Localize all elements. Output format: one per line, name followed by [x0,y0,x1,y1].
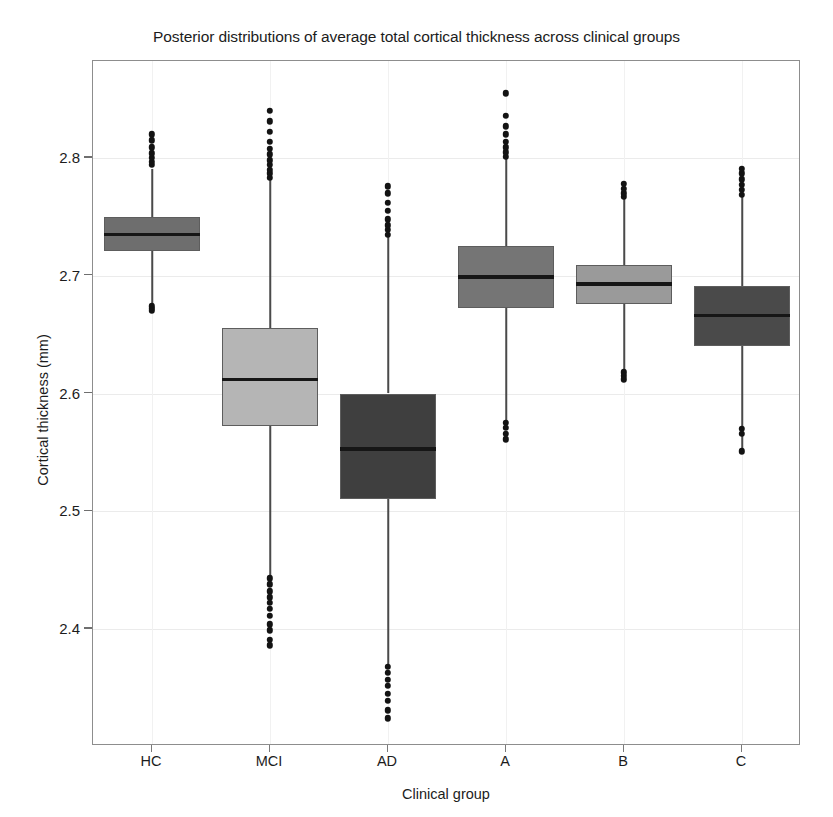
chart-title: Posterior distributions of average total… [0,28,833,46]
x-axis-label: Clinical group [92,786,800,802]
outlier-point [739,448,745,454]
y-axis-tick-label: 2.8 [20,149,80,166]
outlier-point [739,176,745,182]
figure-canvas: Posterior distributions of average total… [0,0,833,817]
whisker-upper [741,196,743,287]
y-axis-tick-mark [84,274,92,275]
x-axis-tick-mark [387,745,388,752]
y-axis-tick-label: 2.6 [20,384,80,401]
median-line [694,314,790,317]
x-axis-tick-label-c: C [696,753,786,769]
x-axis-tick-mark [151,745,152,752]
x-axis-tick-label-hc: HC [106,753,196,769]
boxplot-c[interactable] [93,61,799,744]
y-axis-tick-label: 2.5 [20,502,80,519]
outlier-point [739,430,745,436]
x-axis-tick-label-mci: MCI [224,753,314,769]
x-axis-tick-label-ad: AD [342,753,432,769]
y-axis-tick-mark [84,627,92,628]
x-axis-tick-label-a: A [460,753,550,769]
x-axis-tick-mark [741,745,742,752]
x-axis-tick-label-b: B [578,753,668,769]
y-axis-tick-mark [84,510,92,511]
y-axis-tick-mark [84,156,92,157]
y-axis-tick-mark [84,392,92,393]
x-axis-tick-mark [505,745,506,752]
y-axis-tick-labels: 2.82.72.62.52.4 [14,0,80,817]
x-axis-tick-mark [623,745,624,752]
plot-area [92,60,800,745]
y-axis-tick-label: 2.7 [20,266,80,283]
x-axis-tick-mark [269,745,270,752]
y-axis-tick-label: 2.4 [20,620,80,637]
